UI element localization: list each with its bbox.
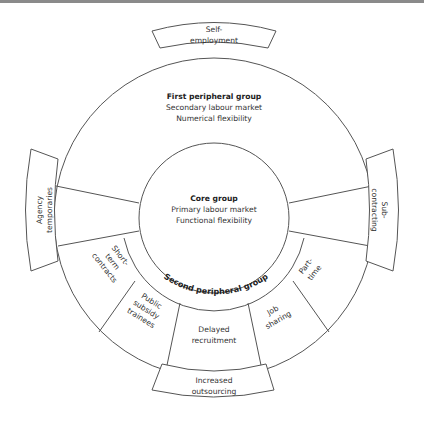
core-line2: Functional flexibility xyxy=(176,216,253,225)
svg-text:recruitment: recruitment xyxy=(192,336,237,345)
sub-contracting-line2: contracting xyxy=(370,188,379,231)
self-employment-line1: Self- xyxy=(206,25,223,34)
core-title: Core group xyxy=(190,194,238,203)
external-box-sub-contracting: Sub- contracting xyxy=(366,149,399,271)
outsourcing-line2: outsourcing xyxy=(192,387,237,396)
external-box-self-employment: Self- employment xyxy=(152,23,276,49)
agency-line2: temporaries xyxy=(45,187,54,233)
first-peripheral-title: First peripheral group xyxy=(167,92,262,101)
sub-contracting-line1: Sub- xyxy=(380,201,389,218)
first-peripheral-line1: Secondary labour market xyxy=(166,103,262,112)
outsourcing-line1: Increased xyxy=(196,376,233,385)
first-peripheral-label: First peripheral group Secondary labour … xyxy=(166,92,262,123)
agency-line1: Agency xyxy=(35,195,44,224)
self-employment-line2: employment xyxy=(190,36,238,45)
first-peripheral-line2: Numerical flexibility xyxy=(176,114,252,123)
flexible-firm-diagram: Self- employment First peripheral group … xyxy=(0,0,424,421)
external-box-agency-temporaries: Agency temporaries xyxy=(26,149,59,271)
svg-text:Delayed: Delayed xyxy=(198,325,229,334)
core-line1: Primary labour market xyxy=(171,205,256,214)
